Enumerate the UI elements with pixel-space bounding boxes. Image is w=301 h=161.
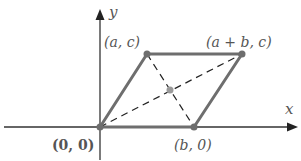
y-axis-label: y [108,3,118,21]
vertex-abc [239,51,246,58]
midpoint [167,87,174,94]
vertex-origin [97,124,104,131]
parallelogram-diagram: y x (a, c) (a + b, c) (0, 0) (b, 0) [0,0,301,161]
vertex-ac [144,51,151,58]
y-axis-arrow-icon [96,9,105,20]
label-ac: (a, c) [104,34,140,50]
label-origin: (0, 0) [52,137,94,153]
label-abc: (a + b, c) [206,34,272,50]
x-axis-arrow-icon [287,123,298,132]
vertex-b0 [191,124,198,131]
label-b0: (b, 0) [174,137,212,153]
x-axis-label: x [285,100,294,118]
